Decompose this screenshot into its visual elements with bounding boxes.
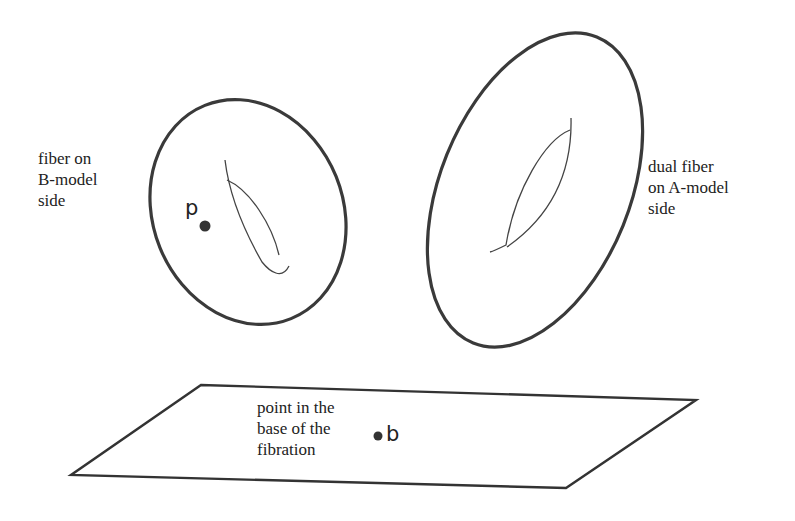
- fibration-diagram: fiber on B-model side dual fiber on A-mo…: [0, 0, 795, 521]
- base-label-line3: fibration: [257, 439, 334, 460]
- point-b-dot: [374, 432, 383, 441]
- point-p-dot: [200, 221, 211, 232]
- a-fiber-label-line2: on A-model: [648, 177, 729, 198]
- a-fiber-torus-hole-upper: [507, 118, 571, 247]
- b-fiber-torus-hole-upper: [225, 160, 289, 274]
- a-fiber-torus-hole-lower: [490, 130, 570, 252]
- b-fiber-torus-hole-lower: [227, 180, 279, 255]
- base-label-line1: point in the: [257, 397, 334, 418]
- a-fiber-label: dual fiber on A-model side: [648, 156, 729, 219]
- base-point-label: point in the base of the fibration: [257, 397, 334, 460]
- b-fiber-torus-outline: [117, 70, 379, 354]
- b-fiber-label-line1: fiber on: [38, 148, 98, 169]
- base-plane: [71, 385, 696, 488]
- a-fiber-label-line1: dual fiber: [648, 156, 729, 177]
- point-b-label: b: [386, 422, 399, 446]
- b-fiber-label-line2: B-model: [38, 169, 98, 190]
- a-fiber-torus-outline: [385, 1, 685, 378]
- b-fiber-label-line3: side: [38, 190, 98, 211]
- base-label-line2: base of the: [257, 418, 334, 439]
- a-fiber-label-line3: side: [648, 198, 729, 219]
- point-p-label: p: [185, 196, 198, 220]
- b-fiber-label: fiber on B-model side: [38, 148, 98, 211]
